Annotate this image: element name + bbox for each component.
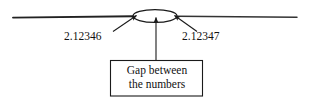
callout-label-line-2: the numbers bbox=[112, 78, 202, 92]
callout-label-line-1: Gap between bbox=[112, 64, 202, 78]
callout-label: Gap between the numbers bbox=[112, 64, 202, 91]
gap-ellipse bbox=[133, 10, 177, 23]
left-value-arrow bbox=[113, 16, 137, 32]
left-value-label: 2.12346 bbox=[64, 30, 101, 44]
right-value-label: 2.12347 bbox=[182, 30, 219, 44]
number-line bbox=[13, 16, 297, 17]
figure-canvas: 2.12346 2.12347 Gap between the numbers bbox=[0, 0, 309, 104]
